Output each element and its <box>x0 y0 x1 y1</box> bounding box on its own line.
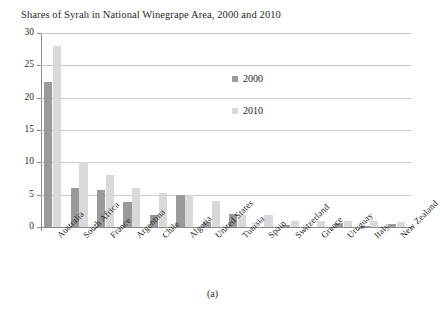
x-tick-mark <box>279 227 280 231</box>
x-tick-mark <box>305 227 306 231</box>
y-tick-mark-5 <box>37 195 41 196</box>
x-tick-mark <box>94 227 95 231</box>
bar <box>44 82 52 227</box>
plot-area <box>41 33 411 227</box>
legend-label: 2000 <box>243 73 263 85</box>
x-tick-mark <box>173 227 174 231</box>
bar-group <box>358 33 384 227</box>
bar <box>291 221 299 227</box>
y-tick-mark-20 <box>37 98 41 99</box>
x-tick-mark <box>147 227 148 231</box>
y-tick-mark-30 <box>37 33 41 34</box>
bar <box>53 46 61 227</box>
bar <box>212 201 220 227</box>
x-tick-mark <box>67 227 68 231</box>
y-tick-label-5: 5 <box>4 190 34 200</box>
bar-group <box>385 33 411 227</box>
y-tick-label-25: 25 <box>4 60 34 70</box>
y-tick-label-0: 0 <box>4 222 34 232</box>
x-tick-mark <box>41 227 42 231</box>
x-tick-mark <box>120 227 121 231</box>
y-tick-mark-10 <box>37 162 41 163</box>
bar-group <box>279 33 305 227</box>
bar <box>185 195 193 227</box>
legend-swatch-icon <box>232 108 238 114</box>
x-tick-mark <box>200 227 201 231</box>
y-tick-mark-25 <box>37 65 41 66</box>
bar-group <box>305 33 331 227</box>
bar-group <box>173 33 199 227</box>
bar-group <box>120 33 146 227</box>
bar-group <box>94 33 120 227</box>
y-tick-label-20: 20 <box>4 93 34 103</box>
bar-group <box>67 33 93 227</box>
bar-group <box>332 33 358 227</box>
x-tick-mark <box>332 227 333 231</box>
bar-group <box>200 33 226 227</box>
bar <box>132 188 140 227</box>
x-tick-mark <box>226 227 227 231</box>
y-tick-label-15: 15 <box>4 125 34 135</box>
legend-label: 2010 <box>243 105 263 117</box>
x-tick-mark <box>411 227 412 231</box>
bar-group <box>252 33 278 227</box>
x-tick-mark <box>385 227 386 231</box>
x-tick-mark <box>252 227 253 231</box>
y-tick-label-10: 10 <box>4 157 34 167</box>
y-tick-mark-15 <box>37 130 41 131</box>
chart-title: Shares of Syrah in National Winegrape Ar… <box>21 9 281 21</box>
legend-swatch-icon <box>232 76 238 82</box>
y-tick-label-30: 30 <box>4 28 34 38</box>
bar-group <box>147 33 173 227</box>
bar-group <box>41 33 67 227</box>
figure-caption: (a) <box>0 288 425 299</box>
x-tick-mark <box>358 227 359 231</box>
